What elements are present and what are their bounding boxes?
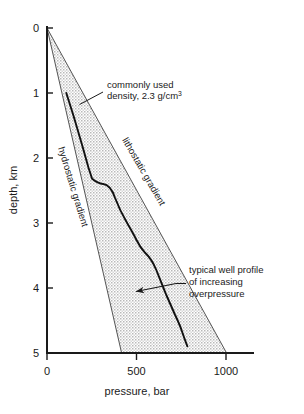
y-tick-label-0: 0 — [33, 22, 39, 34]
x-axis-title: pressure, bar — [105, 385, 170, 397]
density-note-line2-prefix: density, 2.3 g/cm — [107, 90, 178, 101]
pressure-depth-chart: 0 1 2 3 4 5 0 500 1000 pressure, bar dep… — [0, 0, 304, 414]
y-tick-label-3: 3 — [33, 217, 39, 229]
x-tick-label-1000: 1000 — [214, 365, 238, 377]
y-axis-title: depth, km — [7, 166, 19, 214]
y-tick-label-5: 5 — [33, 347, 39, 359]
well-note-line3: overpressure — [189, 288, 244, 299]
well-note-line1: typical well profile — [189, 264, 263, 275]
x-tick-label-0: 0 — [44, 365, 50, 377]
y-tick-label-1: 1 — [33, 87, 39, 99]
density-note-line2: density, 2.3 g/cm3 — [107, 90, 182, 102]
y-tick-label-2: 2 — [33, 152, 39, 164]
well-note-line2: of increasing — [189, 276, 243, 287]
y-tick-label-4: 4 — [33, 282, 39, 294]
density-note-line1: commonly used — [107, 79, 174, 90]
x-tick-label-500: 500 — [127, 365, 145, 377]
density-note-superscript: 3 — [178, 90, 182, 97]
chart-svg: 0 1 2 3 4 5 0 500 1000 pressure, bar dep… — [0, 0, 304, 414]
